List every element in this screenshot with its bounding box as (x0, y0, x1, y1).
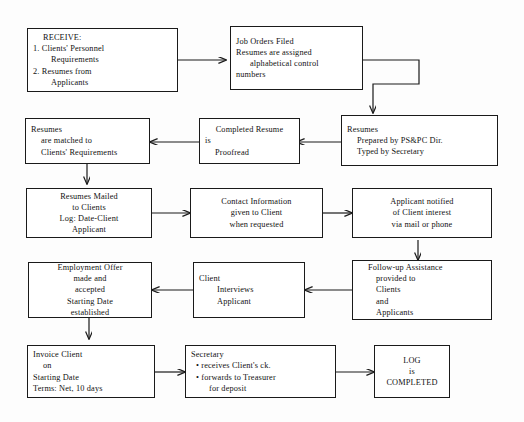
resumes-prepared-line-0: Resumes (347, 124, 492, 135)
resumes-mailed-line-3: Applicant (32, 224, 146, 235)
resumes-mailed-line-1: to Clients (32, 202, 146, 213)
job-orders-line-1: Resumes are assigned (236, 47, 357, 58)
resumes-mailed-line-0: Resumes Mailed (32, 191, 146, 202)
secretary-box: Secretary • receives Client's ck. • forw… (185, 345, 336, 398)
contact-info-line-2: when requested (196, 219, 317, 230)
receive-line-2: Requirements (33, 54, 172, 65)
receive-line-3: 2. Resumes from (33, 66, 172, 77)
follow-up-line-0: Follow-up Assistance (358, 262, 486, 273)
flowchart-canvas: RECEIVE: 1. Clients' Personnel Requireme… (0, 0, 524, 422)
follow-up-line-2: Clients (358, 284, 486, 295)
log-completed-line-2: COMPLETED (380, 377, 444, 388)
employment-offer-line-0: Employment Offer (34, 262, 146, 273)
resumes-matched-line-2: Clients' Requirements (31, 147, 144, 158)
receive-box: RECEIVE: 1. Clients' Personnel Requireme… (27, 28, 178, 92)
applicant-notified-box: Applicant notified of Client interest vi… (352, 188, 492, 238)
follow-up-line-1: provided to (358, 273, 486, 284)
contact-info-line-0: Contact Information (196, 196, 317, 207)
follow-up-line-3: and (358, 296, 486, 307)
applicant-notified-line-0: Applicant notified (358, 196, 486, 207)
receive-line-1: 1. Clients' Personnel (33, 43, 172, 54)
follow-up-assistance-box: Follow-up Assistance provided to Clients… (352, 260, 492, 320)
resumes-matched-line-1: are matched to (31, 135, 144, 146)
invoice-client-line-2: Starting Date (33, 372, 149, 383)
receive-line-0: RECEIVE: (33, 32, 172, 43)
client-interviews-line-1: Interviews (199, 284, 299, 295)
contact-information-box: Contact Information given to Client when… (190, 188, 323, 238)
contact-info-line-1: given to Client (196, 207, 317, 218)
resumes-prepared-line-1: Prepared by PS&PC Dir. (347, 135, 492, 146)
resumes-mailed-line-2: Log: Date-Client (32, 213, 146, 224)
secretary-line-1: • receives Client's ck. (191, 360, 330, 371)
invoice-client-box: Invoice Client on Starting Date Terms: N… (27, 345, 155, 398)
secretary-line-3: for deposit (191, 383, 330, 394)
log-completed-box: LOG is COMPLETED (374, 345, 450, 398)
resumes-prepared-box: Resumes Prepared by PS&PC Dir. Typed by … (341, 115, 498, 166)
employment-offer-line-4: established (34, 307, 146, 318)
resumes-mailed-box: Resumes Mailed to Clients Log: Date-Clie… (26, 188, 152, 238)
secretary-line-2: • forwards to Treasurer (191, 372, 330, 383)
job-orders-line-2: alphabetical control (236, 58, 357, 69)
employment-offer-line-3: Starting Date (34, 296, 146, 307)
secretary-line-0: Secretary (191, 349, 330, 360)
follow-up-line-4: Applicants (358, 307, 486, 318)
completed-resume-line-2: Proofread (205, 147, 294, 158)
log-completed-line-0: LOG (380, 355, 444, 366)
resumes-prepared-line-2: Typed by Secretary (347, 146, 492, 157)
invoice-client-line-3: Terms: Net, 10 days (33, 383, 149, 394)
invoice-client-line-0: Invoice Client (33, 349, 149, 360)
applicant-notified-line-2: via mail or phone (358, 219, 486, 230)
client-interviews-applicant-box: Client Interviews Applicant (193, 262, 305, 318)
completed-resume-line-1: is (205, 135, 294, 146)
employment-offer-line-1: made and (34, 273, 146, 284)
resumes-matched-box: Resumes are matched to Clients' Requirem… (25, 118, 150, 164)
completed-resume-line-0: Completed Resume (205, 124, 294, 135)
connector-job-orders-to-resumes-prepared (363, 60, 419, 113)
client-interviews-line-0: Client (199, 273, 299, 284)
resumes-matched-line-0: Resumes (31, 124, 144, 135)
invoice-client-line-1: on (33, 360, 149, 371)
receive-line-4: Applicants (33, 77, 172, 88)
job-orders-filed-box: Job Orders Filed Resumes are assigned al… (230, 26, 363, 90)
log-completed-line-1: is (380, 366, 444, 377)
employment-offer-box: Employment Offer made and accepted Start… (28, 262, 152, 318)
applicant-notified-line-1: of Client interest (358, 207, 486, 218)
employment-offer-line-2: accepted (34, 284, 146, 295)
client-interviews-line-2: Applicant (199, 296, 299, 307)
completed-resume-proofread-box: Completed Resume is Proofread (199, 118, 300, 164)
job-orders-line-3: numbers (236, 69, 357, 80)
job-orders-line-0: Job Orders Filed (236, 36, 357, 47)
